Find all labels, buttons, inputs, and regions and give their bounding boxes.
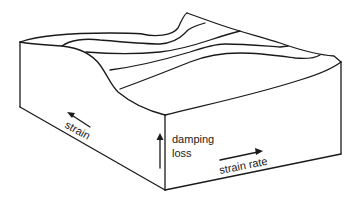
strain-label: strain <box>63 118 92 142</box>
contour-line-1 <box>62 23 205 46</box>
surface-back-edge <box>20 13 187 42</box>
strain-rate-axis: strain rate <box>218 148 268 176</box>
damping-label-line2: loss <box>172 147 192 159</box>
strain-axis: strain <box>63 112 92 142</box>
contour-line-3 <box>110 44 288 70</box>
damping-arrow-icon <box>157 133 164 140</box>
block-outline <box>20 42 341 190</box>
strain-rate-label: strain rate <box>218 155 268 176</box>
front-left-bottom-edge <box>20 107 165 190</box>
strain-rate-arrow-icon <box>255 148 263 155</box>
damping-surface-diagram: strain damping loss strain rate <box>0 0 358 205</box>
surface <box>20 13 341 115</box>
damping-label-line1: damping <box>172 133 214 145</box>
contour-line-2 <box>86 31 240 54</box>
surface-front-right-edge <box>165 62 341 115</box>
